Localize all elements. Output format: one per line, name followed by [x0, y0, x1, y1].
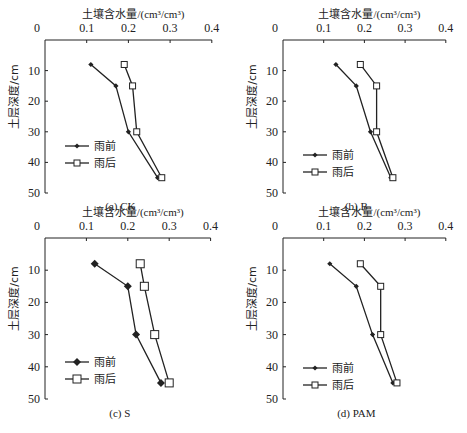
y-tick-label: 50	[266, 392, 278, 406]
filled-diamond-marker	[312, 365, 317, 370]
legend-label: 雨后	[94, 373, 116, 386]
legend-label: 雨后	[332, 166, 354, 179]
x-tick-label: 0.3	[398, 21, 413, 35]
chart-panel-4: 土壤含水量/(cm³/cm³)00.10.20.30.41020304050土层…	[245, 205, 453, 420]
filled-diamond-marker	[368, 129, 373, 134]
open-square-marker	[165, 379, 173, 387]
filled-diamond-marker	[370, 332, 375, 337]
x-axis-title: 土壤含水量/(cm³/cm³)	[82, 205, 184, 219]
x-tick-label: 0.2	[120, 219, 135, 233]
y-axis-title: 土层深度/cm	[245, 64, 259, 128]
open-square-marker	[73, 375, 81, 383]
series-line-after-rain	[124, 64, 162, 177]
y-axis-title: 土层深度/cm	[7, 266, 21, 330]
panel-caption: (c) S	[109, 407, 130, 420]
legend-item-after-rain: 雨后	[65, 373, 116, 386]
legend-item-before-rain: 雨前	[65, 139, 116, 153]
open-square-marker	[374, 83, 380, 89]
open-square-marker	[151, 331, 159, 339]
open-square-marker	[312, 382, 318, 388]
x-tick-label: 0.1	[79, 21, 94, 35]
x-axis-title: 土壤含水量/(cm³/cm³)	[318, 205, 420, 219]
x-tick-label: 0.3	[163, 21, 178, 35]
y-tick-label: 50	[28, 392, 40, 406]
open-square-marker	[390, 175, 396, 181]
y-tick-label: 40	[28, 155, 40, 169]
y-tick-label: 20	[28, 94, 40, 108]
x-tick-label: 0.1	[316, 21, 331, 35]
filled-diamond-marker	[312, 152, 317, 157]
open-square-marker	[374, 129, 380, 135]
panel-caption: (d) PAM	[337, 407, 376, 420]
y-tick-label: 50	[28, 186, 40, 200]
filled-diamond-marker	[91, 260, 99, 268]
series-line-after-rain	[360, 264, 397, 383]
y-tick-label: 30	[28, 328, 40, 342]
x-tick-label: 0	[34, 219, 40, 233]
y-tick-label: 20	[266, 295, 278, 309]
y-tick-label: 30	[266, 328, 278, 342]
y-tick-label: 10	[28, 263, 40, 277]
chart-panel-3: 土壤含水量/(cm³/cm³)00.10.20.30.41020304050土层…	[7, 205, 218, 420]
x-tick-label: 0	[272, 21, 278, 35]
filled-diamond-marker	[73, 358, 81, 366]
legend-label: 雨前	[332, 148, 354, 162]
open-square-marker	[378, 332, 384, 338]
open-square-marker	[312, 169, 318, 175]
open-square-marker	[121, 61, 127, 67]
x-tick-label: 0.4	[438, 21, 453, 35]
y-tick-label: 20	[28, 295, 40, 309]
open-square-marker	[130, 83, 136, 89]
series-line-after-rain	[140, 264, 169, 383]
x-tick-label: 0	[272, 219, 278, 233]
chart-panel-2: 土壤含水量/(cm³/cm³)00.10.20.30.41020304050土层…	[245, 7, 453, 213]
filled-diamond-marker	[74, 143, 79, 148]
x-tick-label: 0.2	[121, 21, 136, 35]
legend-item-after-rain: 雨后	[303, 166, 354, 179]
figure-canvas: 土壤含水量/(cm³/cm³)00.10.20.30.41020304050土层…	[0, 0, 467, 433]
legend-label: 雨前	[94, 139, 116, 153]
filled-diamond-marker	[157, 379, 165, 387]
y-tick-label: 20	[266, 94, 278, 108]
x-tick-label: 0.2	[357, 21, 372, 35]
legend-item-before-rain: 雨前	[303, 361, 354, 375]
x-tick-label: 0.4	[438, 219, 453, 233]
y-tick-label: 30	[266, 125, 278, 139]
y-tick-label: 30	[28, 125, 40, 139]
x-tick-label: 0.2	[357, 219, 372, 233]
legend-item-after-rain: 雨后	[303, 379, 354, 392]
y-axis-title: 土层深度/cm	[245, 266, 259, 330]
x-axis-title: 土壤含水量/(cm³/cm³)	[318, 7, 420, 21]
legend-label: 雨前	[332, 361, 354, 375]
legend-item-after-rain: 雨后	[65, 157, 116, 170]
open-square-marker	[74, 160, 80, 166]
x-tick-label: 0.3	[398, 219, 413, 233]
x-tick-label: 0.4	[203, 219, 218, 233]
x-tick-label: 0.1	[79, 219, 94, 233]
y-axis-title: 土层深度/cm	[7, 64, 21, 128]
legend-label: 雨后	[332, 379, 354, 392]
open-square-marker	[134, 129, 140, 135]
open-square-marker	[394, 380, 400, 386]
open-square-marker	[159, 175, 165, 181]
open-square-marker	[136, 260, 144, 268]
legend-item-before-rain: 雨前	[303, 148, 354, 162]
filled-diamond-marker	[124, 282, 132, 290]
open-square-marker	[378, 283, 384, 289]
chart-panel-1: 土壤含水量/(cm³/cm³)00.10.20.30.41020304050土层…	[7, 7, 219, 213]
x-tick-label: 0.1	[316, 219, 331, 233]
legend-item-before-rain: 雨前	[65, 355, 116, 369]
open-square-marker	[140, 282, 148, 290]
y-tick-label: 40	[266, 360, 278, 374]
x-tick-label: 0.4	[204, 21, 219, 35]
y-tick-label: 10	[266, 263, 278, 277]
y-tick-label: 10	[266, 64, 278, 78]
y-tick-label: 50	[266, 186, 278, 200]
y-tick-label: 10	[28, 64, 40, 78]
y-tick-label: 40	[28, 360, 40, 374]
x-tick-label: 0	[34, 21, 40, 35]
open-square-marker	[357, 61, 363, 67]
legend-label: 雨前	[94, 355, 116, 369]
x-tick-label: 0.3	[162, 219, 177, 233]
x-axis-title: 土壤含水量/(cm³/cm³)	[82, 7, 184, 21]
